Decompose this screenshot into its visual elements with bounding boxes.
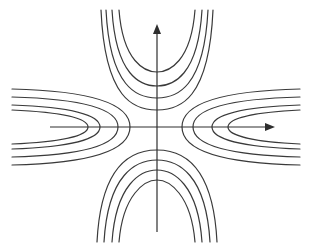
up-arrowhead-icon: [153, 24, 161, 34]
right-arrowhead-icon: [265, 123, 275, 131]
saddle-diagram: [0, 0, 312, 250]
axes: [50, 24, 275, 232]
